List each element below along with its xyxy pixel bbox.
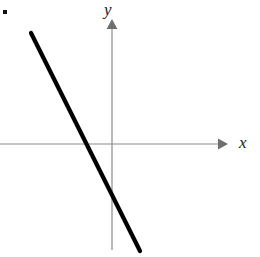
x-axis-arrowhead-icon	[218, 138, 228, 149]
x-axis	[0, 138, 228, 149]
y-axis-label: y	[104, 1, 112, 18]
x-axis-label: x	[239, 134, 247, 151]
graph-figure: y x	[0, 0, 260, 257]
coordinate-plane	[0, 0, 260, 257]
plotted-line-series	[31, 33, 140, 251]
y-axis	[107, 19, 118, 250]
y-axis-arrowhead-icon	[107, 19, 118, 29]
